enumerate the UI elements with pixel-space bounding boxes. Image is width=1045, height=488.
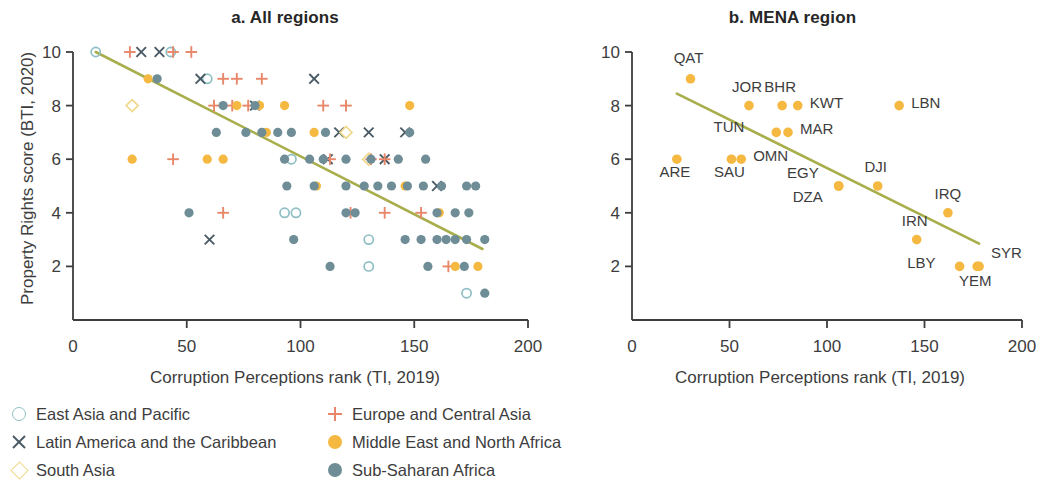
data-point-filled-circle: [280, 155, 289, 164]
data-point-filled-circle: [219, 155, 228, 164]
data-point-filled-circle: [480, 289, 489, 298]
point-label-mar: MAR: [800, 120, 834, 137]
data-point-filled-circle: [955, 262, 965, 272]
open-diamond-icon: [6, 458, 32, 482]
point-label-yem: YEM: [959, 272, 992, 289]
y-tick-label: 10: [601, 43, 620, 62]
data-point-plus: [231, 73, 243, 85]
point-label-jor: JOR: [732, 78, 762, 95]
cross-x-icon: [6, 430, 32, 454]
y-tick-label: 6: [611, 150, 620, 169]
panel-all-regions: a. All regions Property Rights score (BT…: [0, 0, 560, 400]
data-point-open-circle: [462, 289, 471, 298]
data-point-plus: [217, 73, 229, 85]
panel-b-x-axis-label: Corruption Perceptions rank (TI, 2019): [620, 368, 1020, 388]
data-point-filled-circle: [894, 101, 904, 111]
data-point-filled-circle: [777, 101, 787, 111]
data-point-filled-circle: [319, 155, 328, 164]
data-point-x: [136, 47, 146, 57]
data-point-filled-circle: [783, 128, 793, 138]
data-point-filled-circle: [736, 154, 746, 164]
data-point-filled-circle: [834, 181, 844, 191]
y-tick-label: 8: [52, 97, 61, 116]
data-point-x: [205, 235, 215, 245]
data-point-filled-circle: [351, 208, 360, 217]
point-label-irn: IRN: [902, 212, 928, 229]
legend-item[interactable]: South Asia: [6, 456, 326, 484]
data-point-x: [364, 128, 374, 138]
point-label-tun: TUN: [713, 118, 744, 135]
legend-item[interactable]: East Asia and Pacific: [6, 400, 326, 428]
data-point-x: [155, 47, 165, 57]
panel-b-plot: 246810050100150200QATARESAUOMNJORBHRKWTL…: [560, 0, 1045, 400]
data-point-filled-circle: [421, 155, 430, 164]
data-point-filled-circle: [462, 235, 471, 244]
data-point-filled-circle: [128, 155, 137, 164]
data-point-filled-circle: [250, 101, 259, 110]
legend-item[interactable]: Middle East and North Africa: [322, 428, 652, 456]
data-point-filled-circle: [432, 208, 441, 217]
point-label-bhr: BHR: [764, 78, 796, 95]
data-point-plus: [124, 46, 136, 58]
y-tick-label: 2: [52, 257, 61, 276]
x-tick-label: 50: [177, 337, 196, 356]
data-point-filled-circle: [442, 235, 451, 244]
x-tick-label: 0: [68, 337, 77, 356]
data-point-x: [196, 74, 206, 84]
point-label-lbn: LBN: [911, 94, 940, 111]
data-point-filled-circle: [873, 181, 883, 191]
open-circle-icon: [6, 402, 32, 426]
data-point-filled-circle: [341, 155, 350, 164]
legend-column-left: East Asia and PacificLatin America and t…: [6, 400, 326, 484]
filled-circle-icon: [322, 430, 348, 454]
data-point-plus: [340, 100, 352, 112]
x-tick-label: 150: [910, 337, 938, 356]
legend-label: Latin America and the Caribbean: [36, 433, 276, 452]
legend-label: Europe and Central Asia: [352, 405, 531, 424]
data-point-filled-circle: [686, 74, 696, 84]
data-point-filled-circle: [462, 181, 471, 190]
data-point-plus: [317, 100, 329, 112]
data-point-open-diamond: [340, 126, 352, 138]
x-tick-label: 150: [400, 337, 428, 356]
x-tick-label: 50: [720, 337, 739, 356]
data-point-filled-circle: [744, 101, 754, 111]
x-tick-label: 100: [286, 337, 314, 356]
axes: 246810050100150200: [42, 43, 542, 356]
data-point-filled-circle: [403, 181, 412, 190]
y-tick-label: 4: [611, 204, 620, 223]
plus-icon: [322, 402, 348, 426]
point-label-dji: DJI: [864, 158, 887, 175]
data-point-filled-circle: [473, 262, 482, 271]
data-point-filled-circle: [321, 128, 330, 137]
data-point-filled-circle: [289, 235, 298, 244]
panel-a-plot: 246810050100150200: [0, 0, 560, 400]
data-point-filled-circle: [287, 128, 296, 137]
point-label-are: ARE: [659, 163, 690, 180]
data-point-filled-circle: [451, 235, 460, 244]
data-point-filled-circle: [203, 155, 212, 164]
data-point-plus: [379, 207, 391, 219]
data-point-filled-circle: [471, 181, 480, 190]
data-point-open-circle: [291, 208, 300, 217]
data-point-filled-circle: [341, 181, 350, 190]
data-point-plus: [167, 153, 179, 165]
x-tick-label: 100: [813, 337, 841, 356]
data-point-filled-circle: [325, 262, 334, 271]
data-point-filled-circle: [401, 235, 410, 244]
data-point-filled-circle: [451, 262, 460, 271]
data-point-filled-circle: [184, 208, 193, 217]
data-point-filled-circle: [793, 101, 803, 111]
data-point-open-circle: [364, 235, 373, 244]
data-point-filled-circle: [460, 262, 469, 271]
legend-item[interactable]: Sub-Saharan Africa: [322, 456, 652, 484]
data-point-filled-circle: [405, 101, 414, 110]
legend-item[interactable]: Europe and Central Asia: [322, 400, 652, 428]
data-point-filled-circle: [912, 235, 922, 245]
data-point-filled-circle: [451, 208, 460, 217]
data-point-plus: [256, 73, 268, 85]
panel-mena-region: b. MENA region 246810050100150200QATARES…: [560, 0, 1045, 400]
legend-item[interactable]: Latin America and the Caribbean: [6, 428, 326, 456]
data-point-filled-circle: [273, 128, 282, 137]
data-point-filled-circle: [419, 181, 428, 190]
